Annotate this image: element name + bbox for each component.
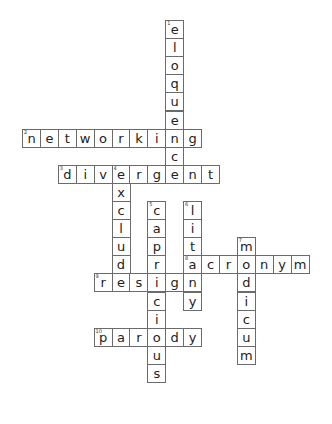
- cell-letter: u: [113, 238, 130, 255]
- cell-letter: w: [77, 130, 94, 147]
- crossword-cell[interactable]: i: [237, 292, 256, 311]
- crossword-cell[interactable]: r: [129, 165, 148, 184]
- clue-number: 1: [167, 20, 170, 26]
- cell-letter: l: [166, 39, 183, 56]
- crossword-cell[interactable]: r: [112, 129, 131, 148]
- crossword-cell[interactable]: c: [237, 310, 256, 329]
- cell-letter: i: [148, 130, 165, 147]
- clue-number: 9: [96, 273, 99, 279]
- crossword-cell[interactable]: l6: [183, 201, 202, 220]
- crossword-cell[interactable]: t: [183, 237, 202, 256]
- crossword-cell[interactable]: e: [165, 165, 184, 184]
- crossword-cell[interactable]: i: [147, 273, 166, 292]
- crossword-cell[interactable]: n: [183, 165, 202, 184]
- crossword-cell[interactable]: n2: [22, 129, 41, 148]
- cell-letter: q: [166, 75, 183, 92]
- crossword-cell[interactable]: g: [165, 273, 184, 292]
- crossword-cell[interactable]: o: [94, 129, 113, 148]
- cell-letter: x: [113, 184, 130, 201]
- crossword-cell[interactable]: u: [112, 237, 131, 256]
- cell-letter: g: [166, 274, 183, 291]
- crossword-cell[interactable]: i: [183, 219, 202, 238]
- crossword-cell[interactable]: q: [165, 74, 184, 93]
- crossword-cell[interactable]: r9: [94, 273, 113, 292]
- cell-letter: m: [238, 347, 255, 364]
- crossword-cell[interactable]: v: [94, 165, 113, 184]
- crossword-cell[interactable]: i: [147, 129, 166, 148]
- cell-letter: n: [256, 256, 273, 273]
- crossword-cell[interactable]: o: [237, 255, 256, 274]
- crossword-cell[interactable]: g: [147, 165, 166, 184]
- crossword-cell[interactable]: w: [76, 129, 95, 148]
- crossword-cell[interactable]: e: [112, 273, 131, 292]
- crossword-cell[interactable]: o: [165, 56, 184, 75]
- clue-number: 6: [185, 201, 188, 207]
- crossword-cell[interactable]: i: [147, 310, 166, 329]
- crossword-cell[interactable]: m7: [237, 237, 256, 256]
- crossword-cell[interactable]: a8: [183, 255, 202, 274]
- crossword-cell[interactable]: c5: [147, 201, 166, 220]
- crossword-cell[interactable]: c: [112, 201, 131, 220]
- cell-letter: i: [238, 293, 255, 310]
- cell-letter: l: [113, 220, 130, 237]
- crossword-cell[interactable]: i: [76, 165, 95, 184]
- cell-letter: c: [238, 311, 255, 328]
- crossword-cell[interactable]: a: [112, 328, 131, 347]
- crossword-cell[interactable]: e4: [112, 165, 131, 184]
- cell-letter: i: [148, 311, 165, 328]
- cell-letter: n: [184, 166, 201, 183]
- crossword-cell[interactable]: y: [183, 328, 202, 347]
- crossword-cell[interactable]: l: [165, 38, 184, 57]
- crossword-cell[interactable]: e: [165, 111, 184, 130]
- cell-letter: o: [148, 329, 165, 346]
- cell-letter: r: [220, 256, 237, 273]
- crossword-cell[interactable]: m: [237, 346, 256, 365]
- crossword-cell[interactable]: m: [291, 255, 310, 274]
- crossword-cell[interactable]: s: [129, 273, 148, 292]
- crossword-cell[interactable]: r: [147, 255, 166, 274]
- crossword-cell[interactable]: u: [147, 346, 166, 365]
- crossword-cell[interactable]: y: [273, 255, 292, 274]
- crossword-cell[interactable]: c: [201, 255, 220, 274]
- crossword-cell[interactable]: e: [40, 129, 59, 148]
- crossword-cell[interactable]: c: [147, 292, 166, 311]
- crossword-cell[interactable]: d: [237, 273, 256, 292]
- crossword-cell[interactable]: r: [219, 255, 238, 274]
- crossword-cell[interactable]: y: [183, 292, 202, 311]
- clue-number: 2: [24, 129, 27, 135]
- crossword-cell[interactable]: l: [112, 219, 131, 238]
- crossword-cell[interactable]: n: [165, 129, 184, 148]
- crossword-cell[interactable]: e1: [165, 20, 184, 39]
- cell-letter: i: [77, 166, 94, 183]
- cell-letter: n: [184, 274, 201, 291]
- cell-letter: e: [166, 166, 183, 183]
- cell-letter: c: [166, 148, 183, 165]
- cell-letter: o: [166, 57, 183, 74]
- cell-letter: e: [41, 130, 58, 147]
- crossword-cell[interactable]: a: [147, 219, 166, 238]
- cell-letter: a: [148, 220, 165, 237]
- crossword-cell[interactable]: u: [237, 328, 256, 347]
- cell-letter: s: [148, 365, 165, 382]
- crossword-cell[interactable]: t: [58, 129, 77, 148]
- crossword-cell[interactable]: n: [183, 273, 202, 292]
- crossword-cell[interactable]: k: [129, 129, 148, 148]
- cell-letter: u: [148, 347, 165, 364]
- crossword-cell[interactable]: d: [112, 255, 131, 274]
- crossword-cell[interactable]: u: [165, 92, 184, 111]
- clue-number: 7: [239, 237, 242, 243]
- crossword-cell[interactable]: r: [129, 328, 148, 347]
- crossword-cell[interactable]: n: [255, 255, 274, 274]
- crossword-cell[interactable]: o: [147, 328, 166, 347]
- crossword-cell[interactable]: g: [183, 129, 202, 148]
- crossword-cell[interactable]: d: [165, 328, 184, 347]
- crossword-cell[interactable]: t: [201, 165, 220, 184]
- crossword-cell[interactable]: p10: [94, 328, 113, 347]
- crossword-cell[interactable]: d3: [58, 165, 77, 184]
- crossword-cell[interactable]: c: [165, 147, 184, 166]
- crossword-cell[interactable]: x: [112, 183, 131, 202]
- cell-letter: u: [238, 329, 255, 346]
- crossword-cell[interactable]: s: [147, 364, 166, 383]
- cell-letter: g: [148, 166, 165, 183]
- crossword-cell[interactable]: p: [147, 237, 166, 256]
